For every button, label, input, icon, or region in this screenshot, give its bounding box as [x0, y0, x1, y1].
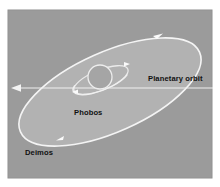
planet-mars [88, 65, 112, 89]
figure-root: Planetary orbit Phobos Deimos [0, 0, 220, 187]
label-planetary-orbit: Planetary orbit [148, 74, 203, 83]
label-deimos: Deimos [25, 148, 53, 157]
label-phobos: Phobos [74, 108, 102, 117]
orbit-diagram: Planetary orbit Phobos Deimos [0, 0, 220, 187]
